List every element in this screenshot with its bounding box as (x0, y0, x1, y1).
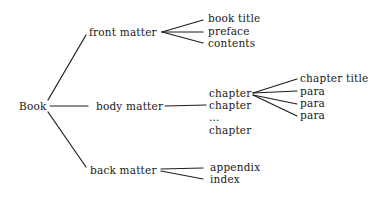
node-preface: preface (208, 25, 250, 37)
edge-book-to-back-matter (48, 112, 86, 167)
edge-book-to-front-matter (48, 35, 86, 100)
node-chapter-title: chapter title (300, 72, 368, 84)
node-contents: contents (208, 37, 255, 49)
node-book: Book (19, 100, 47, 112)
node-front-matter: front matter (89, 26, 157, 38)
node-para-3: para (300, 109, 325, 121)
edge-back-matter-to-appendix (161, 168, 203, 169)
node-index: index (210, 173, 240, 185)
edge-body-matter-to-chapter-2 (165, 105, 206, 106)
edge-chapter-1-to-para-3 (253, 95, 297, 116)
edge-chapter-1-to-para-2 (253, 95, 297, 104)
tree-edges (0, 0, 386, 197)
edge-front-matter-to-contents (162, 32, 203, 43)
node-appendix: appendix (210, 161, 260, 173)
node-chapter-2: chapter (209, 99, 251, 111)
node-para-1: para (300, 85, 325, 97)
node-ellipsis: ... (209, 111, 220, 123)
edge-back-matter-to-index (161, 171, 203, 179)
node-book-title: book title (208, 12, 260, 24)
node-back-matter: back matter (90, 164, 157, 176)
node-body-matter: body matter (96, 100, 163, 112)
edge-front-matter-to-book-title (162, 20, 203, 32)
node-chapter-n: chapter (209, 124, 251, 136)
node-chapter-1: chapter (209, 87, 251, 99)
node-para-2: para (300, 97, 325, 109)
